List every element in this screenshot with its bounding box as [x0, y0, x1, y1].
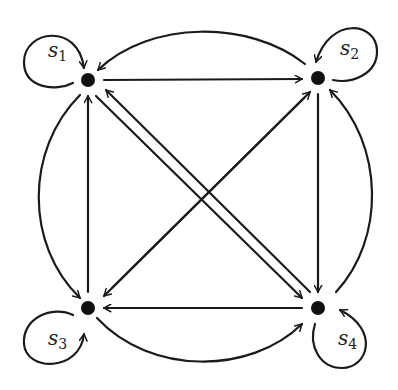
arc-s3-to-s4 — [97, 318, 302, 362]
node-s3 — [81, 301, 95, 315]
label-s1: s1 — [48, 38, 67, 64]
edge-s2-to-s3 — [104, 98, 304, 296]
node-s4 — [311, 301, 325, 315]
edge-s1-to-s4 — [96, 96, 302, 298]
arc-s2-to-s1 — [98, 32, 305, 70]
edge-s1-to-s2 — [104, 79, 302, 80]
label-s3: s3 — [48, 326, 67, 352]
arc-s4-to-s2 — [330, 90, 372, 292]
label-s2: s2 — [340, 36, 359, 62]
arc-s1-to-s3 — [39, 95, 80, 298]
node-s2 — [311, 71, 325, 85]
state-graph: s1 s2 s3 s4 — [0, 0, 398, 390]
node-s1 — [81, 73, 95, 87]
edge-s4-to-s1 — [106, 90, 310, 292]
label-s4: s4 — [338, 326, 357, 352]
